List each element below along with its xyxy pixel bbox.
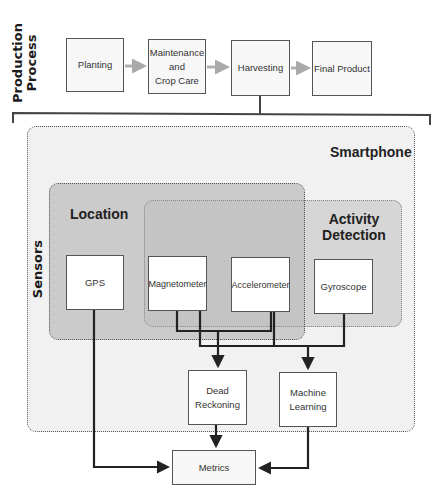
sensor-wires bbox=[94, 310, 344, 468]
process-arrows bbox=[125, 66, 308, 68]
connector-lines bbox=[0, 0, 442, 496]
harvesting-bracket bbox=[13, 96, 430, 125]
